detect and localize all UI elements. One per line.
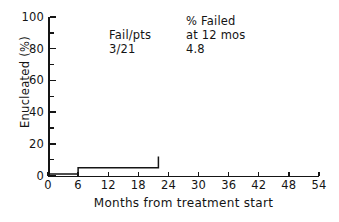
y-axis-title: Enucleated (%)	[18, 2, 32, 162]
x-axis-line	[48, 176, 319, 178]
x-tick-major	[138, 172, 139, 176]
x-tick-label: 0	[44, 178, 52, 192]
y-tick-minor	[50, 64, 54, 65]
y-tick-major	[50, 48, 56, 49]
x-tick-label: 48	[281, 178, 296, 192]
x-tick-major	[228, 172, 229, 176]
y-tick-major	[50, 80, 56, 81]
x-tick-major	[198, 172, 199, 176]
pct-failed-header-line1: % Failed	[186, 14, 246, 28]
x-tick-label: 36	[221, 178, 236, 192]
fail-pts-value: 3/21	[109, 42, 151, 56]
y-tick-minor	[50, 96, 54, 97]
x-tick-major	[77, 172, 78, 176]
x-tick-major	[258, 172, 259, 176]
annotation-percent-failed: % Failed at 12 mos 4.8	[186, 14, 246, 56]
y-tick-major	[50, 111, 56, 112]
y-tick-major	[50, 16, 56, 17]
x-axis-title: Months from treatment start	[48, 196, 319, 210]
x-tick-major	[108, 172, 109, 176]
x-tick-label: 54	[311, 178, 326, 192]
y-tick-major	[50, 143, 56, 144]
x-tick-label: 30	[191, 178, 206, 192]
pct-failed-header-line2: at 12 mos	[186, 28, 246, 42]
y-tick-label-box: 0	[0, 169, 44, 182]
y-tick-minor	[50, 32, 54, 33]
x-tick-label: 12	[101, 178, 116, 192]
pct-failed-value: 4.8	[186, 42, 246, 56]
x-tick-label: 42	[251, 178, 266, 192]
x-tick-label: 24	[161, 178, 176, 192]
x-tick-label: 6	[74, 178, 82, 192]
y-axis-line	[48, 17, 50, 177]
x-tick-major	[168, 172, 169, 176]
annotation-fail-per-pts: Fail/pts 3/21	[109, 28, 151, 56]
x-tick-label: 18	[131, 178, 146, 192]
x-tick-major	[288, 172, 289, 176]
y-tick-minor	[50, 127, 54, 128]
y-tick-minor	[50, 159, 54, 160]
step-curve-path	[48, 157, 158, 174]
y-tick-label: 0	[0, 169, 44, 183]
survival-curve-figure: 100806040200 061218243036424854 Enucleat…	[0, 0, 339, 222]
x-tick-major	[318, 172, 319, 176]
y-tick-major	[50, 175, 56, 176]
fail-pts-header: Fail/pts	[109, 28, 151, 42]
x-tick-major	[47, 172, 48, 176]
